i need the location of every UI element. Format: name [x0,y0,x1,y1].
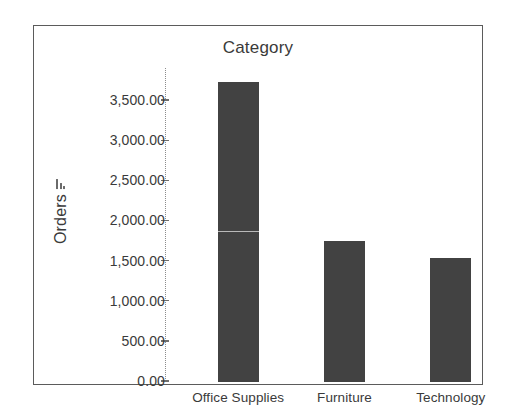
x-axis-tick-label: Technology [416,390,485,405]
y-axis-tick-label: 2,000.00 [110,212,165,228]
plot-area: 0.00500.001,000.001,500.002,000.002,500.… [139,66,484,382]
bar-group[interactable]: Office Supplies [218,67,259,382]
bar-sort-icon[interactable] [56,178,67,189]
bar[interactable] [324,241,365,382]
y-axis-tick-label: 0.00 [137,373,165,389]
y-axis-tick-label: 500.00 [122,333,165,349]
y-axis-title: Orders [48,146,74,276]
bar-group[interactable]: Furniture [324,67,365,382]
x-axis-tick-label: Office Supplies [192,390,284,405]
bar-segment-divider [218,231,259,232]
chart-frame: Category Orders 0.00500.001,000.001,500.… [33,25,483,385]
y-axis-tick-label: 2,500.00 [110,172,165,188]
chart-title: Category [34,38,482,58]
y-axis-tick-label: 3,000.00 [110,132,165,148]
bars-layer[interactable]: Office SuppliesFurnitureTechnology [165,66,484,382]
x-axis-tick-label: Furniture [317,390,372,405]
bar-group[interactable]: Technology [430,67,471,382]
chart-screenshot: Category Orders 0.00500.001,000.001,500.… [0,0,514,418]
y-axis-tick-label: 1,000.00 [110,293,165,309]
y-axis-tick-label: 3,500.00 [110,92,165,108]
bar[interactable] [430,258,471,382]
y-axis-title-label: Orders [52,194,70,244]
y-axis-tick-label: 1,500.00 [110,253,165,269]
bar[interactable] [218,82,259,382]
